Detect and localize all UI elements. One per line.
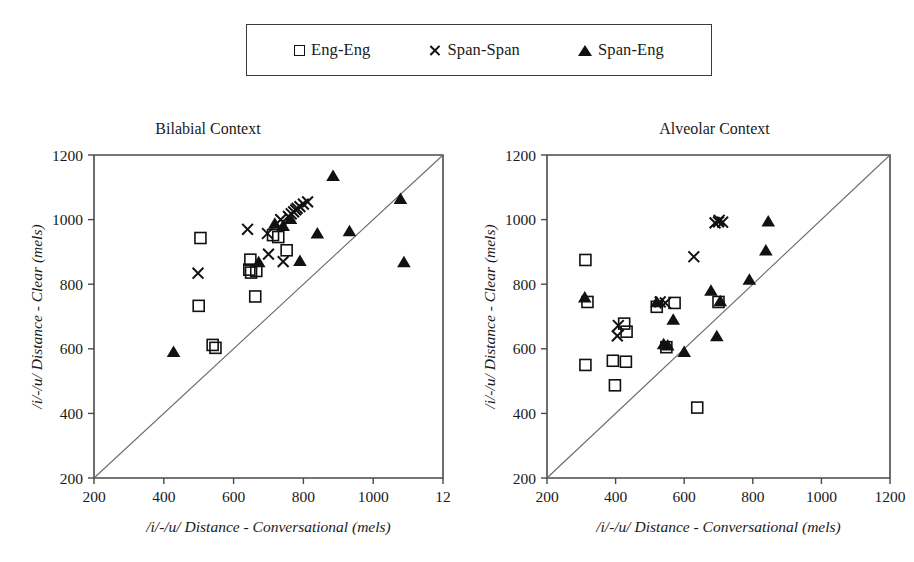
x-tick-label: 600 — [673, 488, 697, 505]
data-point-square — [607, 355, 618, 366]
data-point-triangle — [710, 330, 724, 342]
data-point-cross — [242, 224, 253, 235]
y-axis-title: /i/-/u/ Distance - Clear (mels) — [28, 224, 46, 409]
x-axis-ticks: 200400600800100012 — [82, 478, 450, 505]
y-axis-ticks: 20040060080010001200 — [52, 147, 94, 487]
data-point-square — [210, 342, 221, 353]
diagonal-reference-line — [547, 155, 890, 478]
x-tick-label: 200 — [82, 488, 106, 505]
y-axis-ticks: 20040060080010001200 — [505, 147, 547, 487]
x-tick-label: 1000 — [358, 488, 389, 505]
y-tick-label: 1200 — [505, 147, 536, 164]
y-tick-label: 1000 — [505, 211, 536, 228]
data-point-cross — [278, 256, 289, 267]
data-point-triangle — [759, 244, 773, 256]
x-tick-label: 1000 — [806, 488, 837, 505]
data-point-square — [195, 233, 206, 244]
data-point-square — [281, 245, 292, 256]
y-tick-label: 1200 — [52, 147, 83, 164]
data-point-triangle — [666, 313, 680, 325]
series-eng-eng — [193, 230, 292, 354]
data-point-triangle — [326, 170, 340, 182]
data-point-square — [580, 254, 591, 265]
y-tick-label: 200 — [513, 470, 537, 487]
y-tick-label: 600 — [513, 340, 537, 357]
series-span-eng — [578, 215, 775, 357]
data-point-triangle — [704, 284, 718, 296]
diagonal-reference-line — [94, 155, 443, 478]
x-axis-title: /i/-/u/ Distance - Conversational (mels) — [145, 518, 391, 536]
scatter-plot-alveolar: 2004006008001000120020040060080010001200… — [455, 0, 914, 562]
y-tick-label: 800 — [513, 276, 537, 293]
series-eng-eng — [580, 254, 724, 413]
data-point-square — [580, 359, 591, 370]
data-point-square — [692, 402, 703, 413]
y-tick-label: 1000 — [52, 211, 83, 228]
x-axis-title: /i/-/u/ Distance - Conversational (mels) — [595, 518, 841, 536]
y-tick-label: 400 — [60, 405, 84, 422]
data-point-triangle — [743, 273, 757, 285]
y-tick-label: 400 — [513, 405, 537, 422]
chart-panel-alveolar: Alveolar Context 20040060080010001200200… — [455, 0, 914, 562]
data-point-square — [207, 339, 218, 350]
y-tick-label: 200 — [60, 470, 84, 487]
data-point-cross — [263, 249, 274, 260]
data-point-triangle — [311, 227, 325, 239]
y-tick-label: 600 — [60, 340, 84, 357]
data-point-triangle — [252, 256, 266, 268]
series-span-eng — [167, 170, 411, 358]
data-point-triangle — [343, 225, 357, 237]
data-point-square — [669, 297, 680, 308]
x-tick-label: 800 — [741, 488, 765, 505]
data-point-square — [250, 291, 261, 302]
data-point-cross — [688, 251, 699, 262]
chart-panel-bilabial: Bilabial Context 20040060080010001200200… — [0, 0, 460, 562]
x-axis-ticks: 20040060080010001200 — [535, 478, 905, 505]
y-tick-label: 800 — [60, 276, 84, 293]
x-tick-label: 800 — [292, 488, 316, 505]
x-tick-label: 200 — [535, 488, 559, 505]
data-point-triangle — [761, 215, 775, 227]
data-point-cross — [714, 215, 725, 226]
data-point-square — [620, 356, 631, 367]
data-point-triangle — [677, 346, 691, 358]
data-point-triangle — [293, 254, 307, 265]
x-tick-label: 400 — [152, 488, 176, 505]
data-point-square — [609, 380, 620, 391]
data-point-cross — [193, 268, 204, 279]
x-tick-label: 600 — [222, 488, 246, 505]
x-tick-label: 400 — [604, 488, 628, 505]
data-point-square — [193, 300, 204, 311]
data-point-triangle — [397, 256, 411, 268]
scatter-plot-bilabial: 20040060080010001200200400600800100012/i… — [0, 0, 460, 562]
x-tick-label: 1200 — [875, 488, 906, 505]
x-tick-label: 12 — [435, 488, 451, 505]
y-axis-title: /i/-/u/ Distance - Clear (mels) — [481, 224, 499, 409]
data-point-triangle — [167, 346, 181, 358]
